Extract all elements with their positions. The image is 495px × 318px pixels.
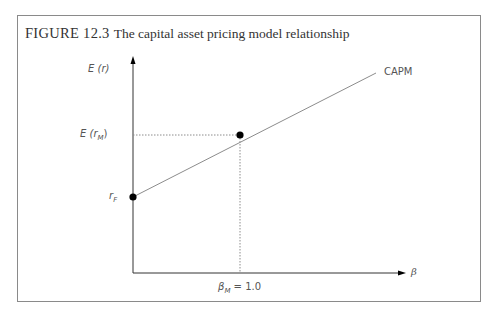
x-axis-arrow-icon xyxy=(398,271,406,276)
y-axis-label: E (r) xyxy=(88,63,109,74)
chart-canvas xyxy=(0,0,495,318)
beta-m-label: βM = 1.0 xyxy=(218,281,261,295)
market-portfolio-point xyxy=(236,131,243,138)
capm-line-label: CAPM xyxy=(384,66,412,77)
market-return-label: E (rM) xyxy=(80,128,107,142)
x-axis-label: β xyxy=(411,266,417,277)
y-axis-arrow-icon xyxy=(131,56,136,64)
risk-free-point xyxy=(129,193,136,200)
risk-free-label: rF xyxy=(109,190,117,204)
